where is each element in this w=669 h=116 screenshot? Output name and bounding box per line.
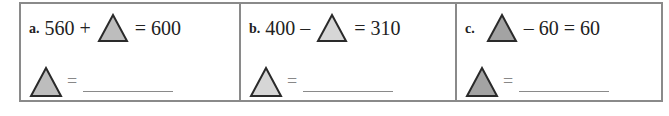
problem-c-answer: = — [465, 64, 609, 98]
triangle-icon — [29, 66, 63, 98]
problem-a-cell: a. 560 + = 600 = — [21, 4, 239, 100]
problem-label: b. — [249, 21, 260, 37]
problem-label: c. — [465, 21, 475, 37]
problem-c-equation: c. – 60 = 60 — [465, 12, 600, 44]
problem-b-equation: b. 400 – = 310 — [249, 12, 401, 44]
equals-sign: = — [287, 71, 297, 92]
equals-sign: = — [67, 71, 77, 92]
triangle-icon — [97, 13, 129, 43]
equation-right: = 600 — [135, 17, 181, 40]
problem-table: a. 560 + = 600 = b. 400 – = 310 — [19, 2, 663, 102]
triangle-icon — [249, 66, 283, 98]
answer-blank[interactable] — [519, 91, 609, 92]
problem-a-equation: a. 560 + = 600 — [29, 12, 181, 44]
problem-c-cell: c. – 60 = 60 = — [455, 4, 661, 100]
problem-a-answer: = — [29, 64, 173, 98]
problem-b-answer: = — [249, 64, 393, 98]
equation-left: 400 – — [265, 17, 310, 40]
triangle-icon — [316, 13, 348, 43]
problem-label: a. — [29, 21, 40, 37]
triangle-icon — [486, 13, 518, 43]
equation-right: = 310 — [354, 17, 400, 40]
equals-sign: = — [503, 71, 513, 92]
problem-b-cell: b. 400 – = 310 = — [239, 4, 455, 100]
answer-blank[interactable] — [83, 91, 173, 92]
answer-blank[interactable] — [303, 91, 393, 92]
equation-right: – 60 = 60 — [524, 17, 600, 40]
equation-left: 560 + — [45, 17, 91, 40]
triangle-icon — [465, 66, 499, 98]
